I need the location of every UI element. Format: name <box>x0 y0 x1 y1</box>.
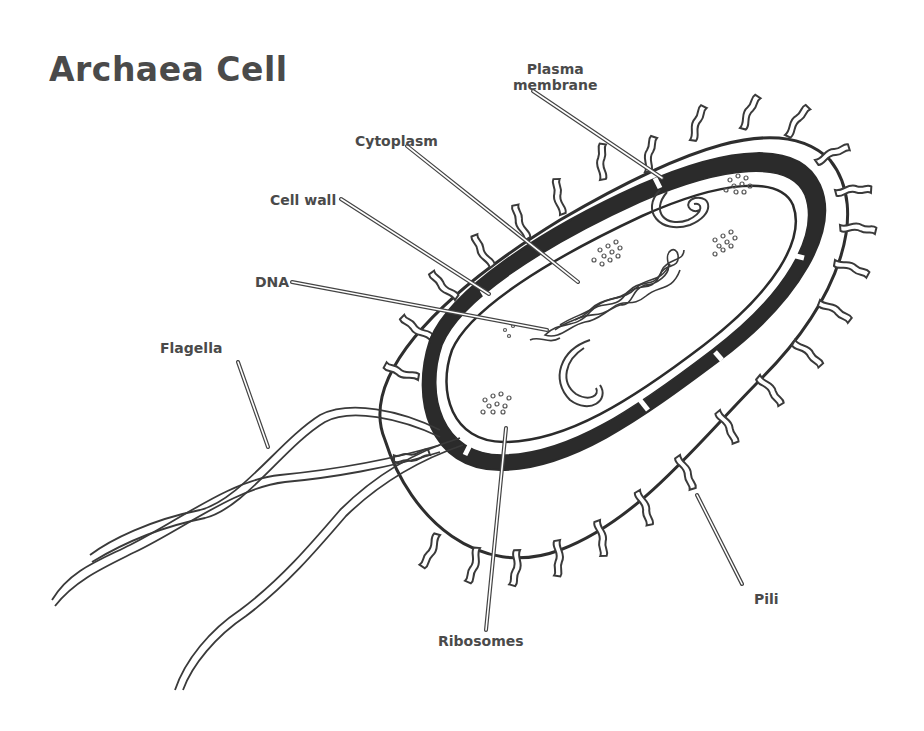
label-plasma-membrane: Plasma membrane <box>513 61 598 93</box>
label-dna: DNA <box>255 274 289 290</box>
label-cell-wall: Cell wall <box>270 192 336 208</box>
archaea-cell-diagram: Archaea Cell Plasma membrane Cytoplasm C… <box>0 0 924 731</box>
label-flagella: Flagella <box>160 340 222 356</box>
label-plasma-membrane-line1: Plasma <box>513 61 598 77</box>
label-pili: Pili <box>754 591 779 607</box>
diagram-title: Archaea Cell <box>49 50 288 89</box>
label-ribosomes: Ribosomes <box>438 633 524 649</box>
label-cytoplasm: Cytoplasm <box>355 133 438 149</box>
label-plasma-membrane-line2: membrane <box>513 77 598 93</box>
cell-illustration <box>0 0 924 731</box>
